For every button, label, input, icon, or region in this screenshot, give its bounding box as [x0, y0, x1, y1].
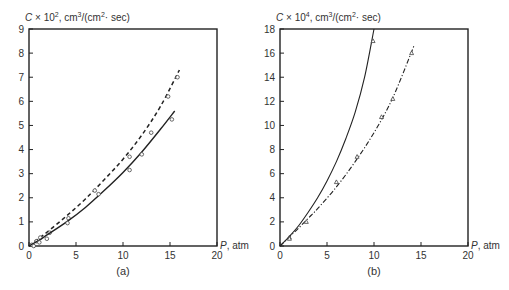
data-point-circle: [93, 189, 97, 193]
y-tick-label: 4: [18, 144, 24, 155]
x-axis-label: P, atm: [471, 240, 500, 251]
x-axis-label: P, atm: [220, 240, 249, 251]
y-tick-label: 7: [18, 72, 24, 83]
series-line-dashed: [29, 70, 179, 246]
y-tick-label: 10: [264, 120, 276, 131]
x-tick-label: 15: [415, 250, 427, 261]
series-line-solid: [280, 29, 374, 246]
y-axis-label: C × 104, cm3/(cm2· sec): [276, 11, 381, 23]
data-point-circle: [149, 131, 153, 135]
y-tick-label: 0: [18, 241, 24, 252]
data-point-circle: [140, 153, 144, 157]
x-tick-label: 5: [324, 250, 330, 261]
x-tick-label: 10: [368, 250, 380, 261]
x-tick-label: 15: [164, 250, 176, 261]
y-tick-label: 12: [264, 96, 276, 107]
y-tick-label: 1: [18, 216, 24, 227]
y-tick-label: 14: [264, 72, 276, 83]
y-tick-label: 18: [264, 24, 276, 35]
x-tick-label: 20: [211, 250, 223, 261]
y-tick-label: 2: [269, 216, 275, 227]
data-point-triangle: [355, 155, 359, 159]
y-tick-label: 3: [18, 168, 24, 179]
y-tick-label: 5: [18, 120, 24, 131]
plot-frame: [280, 29, 468, 246]
data-point-triangle: [304, 220, 308, 224]
y-tick-label: 6: [18, 96, 24, 107]
data-point-triangle: [334, 180, 338, 184]
data-point-circle: [176, 75, 180, 79]
y-tick-label: 16: [264, 48, 276, 59]
data-point-circle: [128, 155, 132, 159]
y-tick-label: 2: [18, 192, 24, 203]
data-point-circle: [128, 168, 132, 172]
y-tick-label: 8: [18, 48, 24, 59]
data-point-circle: [97, 192, 101, 196]
series-line-dashdot: [280, 45, 414, 246]
panel-label: (b): [367, 265, 380, 277]
data-point-triangle: [380, 115, 384, 119]
chart-panel-b: 02468101214161805101520P, atmC × 104, cm…: [264, 11, 500, 277]
data-point-circle: [32, 244, 36, 248]
figure-canvas: 012345678905101520P, atmC × 102, cm3/(cm…: [0, 0, 509, 290]
x-tick-label: 10: [117, 250, 129, 261]
y-tick-label: 8: [269, 144, 275, 155]
chart-panel-a: 012345678905101520P, atmC × 102, cm3/(cm…: [18, 11, 248, 277]
y-tick-label: 4: [269, 192, 275, 203]
y-tick-label: 9: [18, 24, 24, 35]
x-tick-label: 5: [73, 250, 79, 261]
data-point-circle: [66, 221, 70, 225]
x-tick-label: 0: [26, 250, 32, 261]
y-tick-label: 0: [269, 241, 275, 252]
plot-frame: [29, 29, 217, 246]
data-point-triangle: [391, 97, 395, 101]
x-tick-label: 20: [462, 250, 474, 261]
data-point-circle: [38, 241, 42, 245]
data-point-circle: [166, 95, 170, 99]
x-tick-label: 0: [277, 250, 283, 261]
y-tick-label: 6: [269, 168, 275, 179]
panel-label: (a): [116, 265, 129, 277]
y-axis-label: C × 102, cm3/(cm2· sec): [25, 11, 130, 23]
data-point-triangle: [410, 51, 414, 55]
data-point-circle: [170, 118, 174, 122]
data-point-circle: [45, 237, 49, 241]
